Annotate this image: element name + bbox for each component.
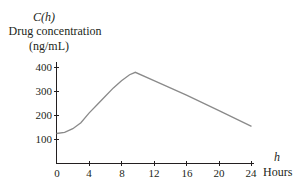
y-axis — [54, 62, 59, 164]
concentration-curve — [57, 72, 252, 133]
x-axis — [56, 161, 254, 166]
chart-plot — [0, 0, 299, 187]
